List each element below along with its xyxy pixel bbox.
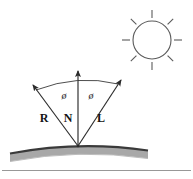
- vector-label-l: L: [97, 111, 105, 125]
- sun-icon: [122, 10, 182, 70]
- angle-phi-right: ø: [88, 90, 95, 101]
- figure-container: R N L ø ø: [0, 0, 193, 179]
- angle-arc: [36, 80, 118, 90]
- reflection-diagram: R N L ø ø: [0, 0, 193, 179]
- curved-surface: [10, 146, 148, 161]
- sun-rays: [122, 10, 182, 70]
- origin-point: [77, 145, 80, 148]
- vector-label-n: N: [64, 111, 73, 125]
- angle-phi-left: ø: [61, 90, 68, 101]
- vector-label-r: R: [40, 111, 49, 125]
- sun-disc: [133, 21, 171, 59]
